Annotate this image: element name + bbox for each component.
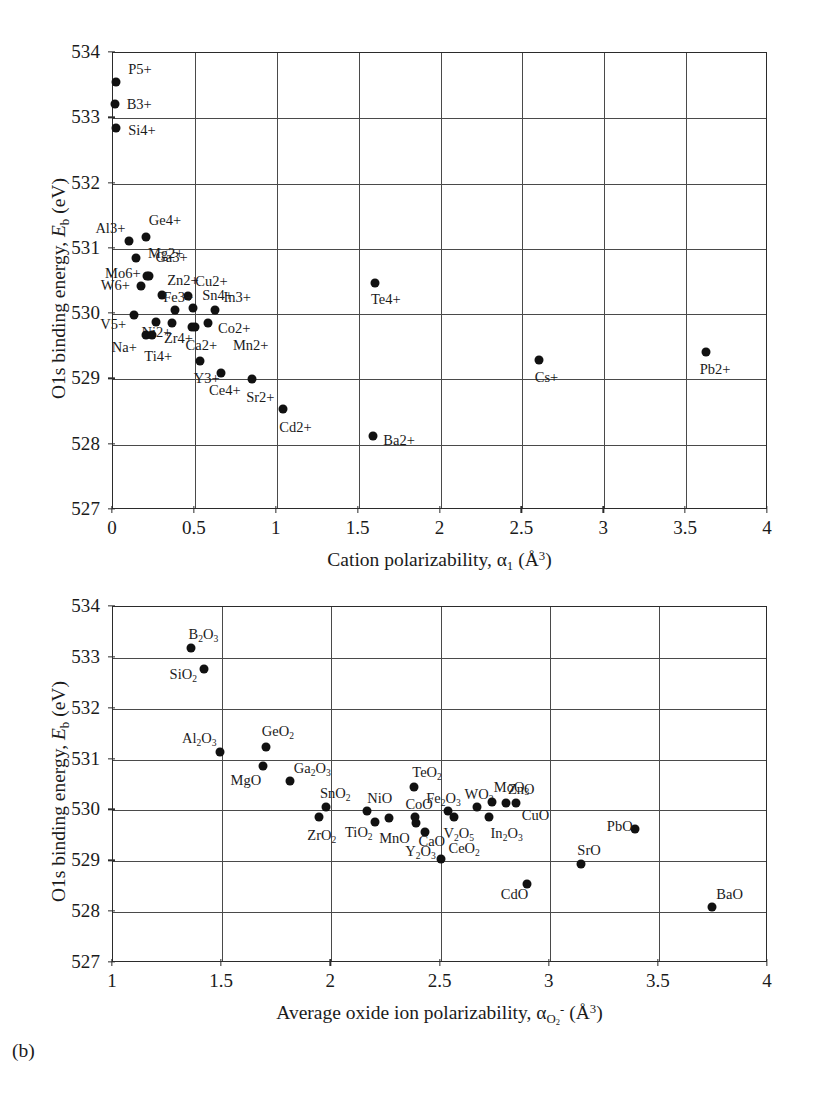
data-point bbox=[261, 743, 270, 752]
x-axis-tick-label: 2.5 bbox=[510, 517, 534, 539]
data-point-label: CdO bbox=[501, 887, 528, 902]
y-axis-tick-label: 533 bbox=[71, 106, 100, 128]
y-axis-tick-label: 531 bbox=[71, 748, 100, 770]
data-point bbox=[130, 311, 139, 320]
y-axis-tick-label: 532 bbox=[71, 172, 100, 194]
gridline-vertical bbox=[522, 53, 523, 508]
data-point bbox=[217, 368, 226, 377]
gridline-vertical bbox=[222, 607, 223, 961]
data-point bbox=[421, 827, 430, 836]
y-axis-tick-mark bbox=[108, 605, 115, 606]
data-point-label: Te4+ bbox=[371, 292, 401, 307]
data-point bbox=[279, 404, 288, 413]
data-point bbox=[701, 348, 710, 357]
y-axis-tick-label: 527 bbox=[71, 951, 100, 973]
data-point bbox=[502, 799, 511, 808]
data-point bbox=[412, 818, 421, 827]
data-point-label: Co2+ bbox=[218, 321, 250, 336]
x-axis-tick-label: 1.5 bbox=[346, 517, 370, 539]
gridline-vertical bbox=[359, 53, 360, 508]
x-axis-tick-label: 3.5 bbox=[673, 517, 697, 539]
data-point-label: Al3+ bbox=[95, 221, 125, 236]
y-axis-tick-label: 527 bbox=[71, 498, 100, 520]
data-point-label: P5+ bbox=[128, 62, 152, 77]
data-point-label: B3+ bbox=[127, 97, 152, 112]
x-axis-tick-mark bbox=[439, 959, 440, 966]
data-point-label: Ge4+ bbox=[149, 213, 181, 228]
x-axis-tick-mark bbox=[111, 959, 112, 966]
y-axis-tick-mark bbox=[108, 117, 115, 118]
data-point bbox=[189, 303, 198, 312]
data-point bbox=[410, 783, 419, 792]
gridline-vertical bbox=[277, 53, 278, 508]
data-point-label: PbO bbox=[607, 819, 633, 834]
data-point-label: Ga3+ bbox=[155, 250, 187, 265]
y-axis-tick-label: 534 bbox=[71, 595, 100, 617]
data-point bbox=[258, 762, 267, 771]
data-point bbox=[484, 812, 493, 821]
data-point bbox=[141, 233, 150, 242]
data-point bbox=[199, 665, 208, 674]
data-point bbox=[186, 644, 195, 653]
y-axis-tick-mark bbox=[108, 443, 115, 444]
x-axis-tick-mark bbox=[766, 959, 767, 966]
data-point-label: Ti4+ bbox=[144, 349, 172, 364]
data-point bbox=[363, 807, 372, 816]
data-point bbox=[210, 305, 219, 314]
data-point bbox=[285, 776, 294, 785]
data-point bbox=[385, 814, 394, 823]
gridline-horizontal bbox=[113, 314, 766, 315]
data-point-label: Y2O3 bbox=[405, 844, 436, 860]
data-point bbox=[167, 319, 176, 328]
x-axis-tick-label: 3 bbox=[599, 517, 609, 539]
gridline-horizontal bbox=[113, 118, 766, 119]
data-point-label: B2O3 bbox=[189, 627, 219, 643]
data-point bbox=[472, 803, 481, 812]
x-axis-tick-label: 3 bbox=[544, 970, 554, 992]
data-point bbox=[371, 279, 380, 288]
y-axis-tick-label: 529 bbox=[71, 367, 100, 389]
y-axis-tick-label: 532 bbox=[71, 697, 100, 719]
x-axis-tick-label: 4 bbox=[762, 970, 772, 992]
y-axis-title: O1s binding energy, Eb (eV) bbox=[48, 178, 73, 399]
data-point bbox=[136, 282, 145, 291]
x-axis-tick-label: 2.5 bbox=[428, 970, 452, 992]
gridline-horizontal bbox=[113, 760, 766, 761]
data-point-label: Ga2O3 bbox=[294, 761, 331, 777]
data-point-label: Sr2+ bbox=[246, 390, 274, 405]
gridline-horizontal bbox=[113, 810, 766, 811]
gridline-horizontal bbox=[113, 184, 766, 185]
data-point-label: Si4+ bbox=[128, 123, 156, 138]
y-axis-tick-label: 529 bbox=[71, 849, 100, 871]
data-point-label: Cs+ bbox=[535, 370, 559, 385]
data-point-label: SiO2 bbox=[170, 667, 197, 683]
x-axis-tick-mark bbox=[275, 506, 276, 513]
y-axis-tick-mark bbox=[108, 51, 115, 52]
y-axis-tick-mark bbox=[108, 378, 115, 379]
data-point-label: Na+ bbox=[112, 340, 137, 355]
x-axis-tick-mark bbox=[111, 506, 112, 513]
gridline-horizontal bbox=[113, 912, 766, 913]
data-point bbox=[190, 323, 199, 332]
gridline-vertical bbox=[550, 607, 551, 961]
gridline-vertical bbox=[659, 607, 660, 961]
y-axis-tick-label: 530 bbox=[71, 798, 100, 820]
x-axis-tick-label: 2 bbox=[326, 970, 336, 992]
data-point-label: MgO bbox=[231, 773, 262, 788]
x-axis-tick-mark bbox=[603, 506, 604, 513]
data-point bbox=[577, 859, 586, 868]
data-point bbox=[148, 331, 157, 340]
data-point-label: ZrO2 bbox=[307, 828, 336, 844]
data-point-label: ZnO bbox=[508, 782, 535, 797]
data-point-label: In2O3 bbox=[491, 826, 523, 842]
y-axis-tick-mark bbox=[108, 656, 115, 657]
data-point-label: BaO bbox=[716, 887, 743, 902]
x-axis-tick-label: 4 bbox=[762, 517, 772, 539]
y-axis-tick-mark bbox=[108, 707, 115, 708]
data-point-label: In3+ bbox=[224, 290, 252, 305]
data-point bbox=[125, 237, 134, 246]
x-axis-tick-mark bbox=[657, 959, 658, 966]
gridline-horizontal bbox=[113, 445, 766, 446]
x-axis-tick-mark bbox=[548, 959, 549, 966]
data-point bbox=[511, 799, 520, 808]
